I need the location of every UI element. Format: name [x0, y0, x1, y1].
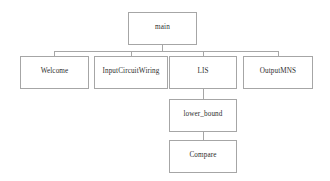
node-welcome[interactable]: Welcome	[20, 56, 89, 89]
connector-horizontal-bus	[54, 51, 279, 52]
node-compare-label: Compare	[189, 152, 216, 159]
node-input-circuit-wiring[interactable]: InputCircuitWiring	[94, 56, 168, 89]
connector-lower-bound-to-compare	[203, 132, 204, 140]
node-lis[interactable]: LIS	[169, 56, 237, 89]
node-output-mns-label: OutputMNS	[260, 68, 296, 75]
node-main[interactable]: main	[128, 12, 197, 45]
node-compare[interactable]: Compare	[169, 140, 237, 173]
node-welcome-label: Welcome	[41, 68, 69, 75]
node-main-label: main	[155, 24, 170, 31]
node-input-circuit-wiring-label: InputCircuitWiring	[102, 68, 159, 75]
node-lis-label: LIS	[197, 68, 208, 75]
structure-chart-diagram: main Welcome InputCircuitWiring LIS Outp…	[0, 0, 330, 181]
connector-lis-to-lower-bound	[203, 89, 204, 99]
node-lower-bound[interactable]: lower_bound	[169, 99, 237, 132]
node-lower-bound-label: lower_bound	[183, 111, 222, 118]
node-output-mns[interactable]: OutputMNS	[243, 56, 313, 89]
